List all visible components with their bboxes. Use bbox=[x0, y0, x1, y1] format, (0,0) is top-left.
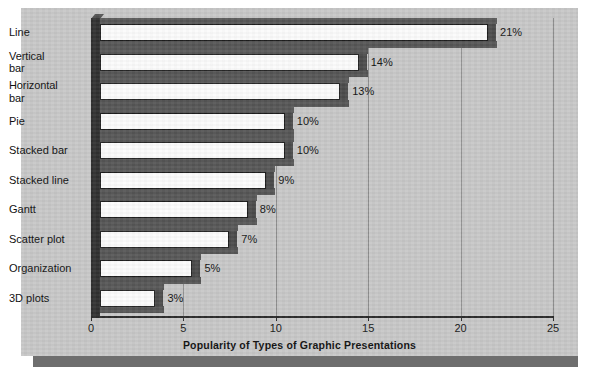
bar-1[interactable] bbox=[100, 48, 368, 78]
value-label-1: 14% bbox=[371, 56, 393, 68]
bar-depth-right bbox=[488, 24, 496, 41]
category-label-9: 3D plots bbox=[9, 292, 87, 305]
bar-front-face bbox=[100, 231, 229, 248]
value-label-5: 9% bbox=[278, 174, 294, 186]
bar-depth-bottom bbox=[100, 277, 201, 284]
bar-4[interactable] bbox=[100, 136, 294, 166]
value-label-0: 21% bbox=[500, 26, 522, 38]
bar-depth-right bbox=[285, 113, 293, 130]
value-label-8: 5% bbox=[204, 262, 220, 274]
category-label-line: Vertical bbox=[9, 50, 87, 63]
category-label-line: Organization bbox=[9, 262, 87, 275]
bar-depth-right bbox=[192, 260, 200, 277]
bar-front-face bbox=[100, 260, 192, 277]
category-label-line: Gantt bbox=[9, 203, 87, 216]
category-label-line: 3D plots bbox=[9, 292, 87, 305]
bar-depth-right bbox=[266, 172, 274, 189]
bar-front-face bbox=[100, 113, 285, 130]
bar-depth-right bbox=[359, 54, 367, 71]
bar-depth-bottom bbox=[100, 188, 275, 195]
x-axis-line bbox=[91, 316, 554, 318]
x-tick-label-15: 15 bbox=[353, 322, 383, 334]
value-label-2: 13% bbox=[352, 85, 374, 97]
bar-depth-right bbox=[248, 201, 256, 218]
category-label-line: bar bbox=[9, 92, 87, 105]
x-tick-0 bbox=[91, 316, 92, 321]
category-label-line: Line bbox=[9, 26, 87, 39]
value-label-3: 10% bbox=[297, 115, 319, 127]
category-label-2: Horizontalbar bbox=[9, 79, 87, 104]
category-label-line: Horizontal bbox=[9, 79, 87, 92]
bar-front-face bbox=[100, 142, 285, 159]
x-tick-label-20: 20 bbox=[446, 322, 476, 334]
bar-front-face bbox=[100, 83, 340, 100]
bar-front-face bbox=[100, 201, 248, 218]
bar-row: Verticalbar14% bbox=[21, 48, 578, 78]
bar-row: Pie10% bbox=[21, 107, 578, 137]
category-label-4: Stacked bar bbox=[9, 144, 87, 157]
bar-depth-right bbox=[229, 231, 237, 248]
bar-row: Gantt8% bbox=[21, 195, 578, 225]
bar-row: 3D plots3% bbox=[21, 284, 578, 314]
bar-row: Organization5% bbox=[21, 254, 578, 284]
bar-depth-right bbox=[155, 290, 163, 307]
bar-depth-bottom bbox=[100, 159, 294, 166]
category-label-7: Scatter plot bbox=[9, 233, 87, 246]
category-label-6: Gantt bbox=[9, 203, 87, 216]
bar-front-face bbox=[100, 24, 488, 41]
bar-front-face bbox=[100, 290, 155, 307]
category-label-line: Stacked bar bbox=[9, 144, 87, 157]
x-tick-5 bbox=[183, 316, 184, 321]
x-tick-10 bbox=[276, 316, 277, 321]
bar-row: Stacked bar10% bbox=[21, 136, 578, 166]
bar-6[interactable] bbox=[100, 195, 257, 225]
x-tick-label-25: 25 bbox=[538, 322, 568, 334]
bar-depth-bottom bbox=[100, 306, 164, 313]
bar-depth-bottom bbox=[100, 129, 294, 136]
x-axis-title: Popularity of Types of Graphic Presentat… bbox=[21, 339, 578, 351]
category-label-0: Line bbox=[9, 26, 87, 39]
bar-5[interactable] bbox=[100, 166, 275, 196]
bar-depth-bottom bbox=[100, 70, 368, 77]
category-label-line: Scatter plot bbox=[9, 233, 87, 246]
category-label-line: Pie bbox=[9, 115, 87, 128]
bar-row: Stacked line9% bbox=[21, 166, 578, 196]
x-tick-15 bbox=[368, 316, 369, 321]
bar-depth-bottom bbox=[100, 218, 257, 225]
bar-depth-right bbox=[340, 83, 348, 100]
bar-8[interactable] bbox=[100, 254, 201, 284]
x-tick-25 bbox=[553, 316, 554, 321]
bar-7[interactable] bbox=[100, 225, 238, 255]
x-tick-label-0: 0 bbox=[76, 322, 106, 334]
value-label-7: 7% bbox=[241, 233, 257, 245]
category-label-line: Stacked line bbox=[9, 174, 87, 187]
bar-depth-bottom bbox=[100, 41, 497, 48]
category-label-1: Verticalbar bbox=[9, 50, 87, 75]
value-label-4: 10% bbox=[297, 144, 319, 156]
category-label-5: Stacked line bbox=[9, 174, 87, 187]
bar-0[interactable] bbox=[100, 18, 497, 48]
x-tick-label-10: 10 bbox=[261, 322, 291, 334]
bar-front-face bbox=[100, 172, 266, 189]
bar-9[interactable] bbox=[100, 284, 164, 314]
bar-depth-bottom bbox=[100, 247, 238, 254]
x-tick-20 bbox=[461, 316, 462, 321]
bar-depth-bottom bbox=[100, 100, 349, 107]
bar-row: Horizontalbar13% bbox=[21, 77, 578, 107]
plot-area: 0510152025 Line21%Verticalbar14%Horizont… bbox=[21, 8, 578, 356]
bar-2[interactable] bbox=[100, 77, 349, 107]
value-label-9: 3% bbox=[167, 292, 183, 304]
bar-row: Line21% bbox=[21, 18, 578, 48]
bar-row: Scatter plot7% bbox=[21, 225, 578, 255]
bar-3[interactable] bbox=[100, 107, 294, 137]
bar-front-face bbox=[100, 54, 359, 71]
category-label-line: bar bbox=[9, 62, 87, 75]
bar-depth-right bbox=[285, 142, 293, 159]
chart-panel: 0510152025 Line21%Verticalbar14%Horizont… bbox=[21, 8, 578, 356]
category-label-3: Pie bbox=[9, 115, 87, 128]
category-label-8: Organization bbox=[9, 262, 87, 275]
value-label-6: 8% bbox=[260, 203, 276, 215]
x-tick-label-5: 5 bbox=[168, 322, 198, 334]
